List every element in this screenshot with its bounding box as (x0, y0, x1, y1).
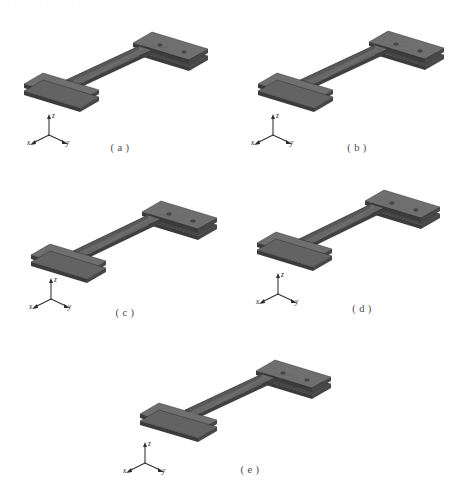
panel-a: z x y ( a ) (0, 12, 232, 160)
axis-triad-a: z x y (27, 111, 73, 147)
panel-d-caption: ( d ) (332, 303, 392, 314)
panel-e-caption: ( e ) (220, 464, 280, 475)
axis-label-y: y (294, 298, 299, 306)
panel-c-caption: ( c ) (95, 307, 155, 318)
axis-triad-c: z x y (29, 275, 75, 311)
beam-web (300, 45, 388, 88)
axis-label-z: z (147, 440, 151, 448)
axis-triad-e: z x y (123, 439, 169, 475)
beam-web (73, 215, 161, 259)
axis-label-z: z (275, 112, 279, 120)
specimen-e (110, 340, 360, 499)
axis-label-z: z (51, 112, 55, 120)
axis-label-x: x (122, 467, 127, 475)
axis-label-z: z (280, 271, 284, 279)
scan-artifact-text: ·· ··· ···· ··· ···· ··· ···· ·· (4, 0, 154, 9)
axis-label-y: y (289, 139, 294, 147)
axis-label-x: x (26, 139, 31, 147)
beam-web (66, 46, 152, 88)
axis-triad-d: z x y (256, 270, 302, 306)
axis-label-y: y (65, 139, 70, 147)
axis-label-x: x (28, 303, 33, 311)
panel-c: z x y ( c ) (0, 175, 232, 325)
axis-label-y: y (161, 467, 166, 475)
axis-label-y: y (67, 303, 72, 311)
axis-triad-b: z x y (251, 111, 297, 147)
panel-b: z x y ( b ) (232, 12, 464, 160)
axis-label-x: x (250, 139, 255, 147)
axis-label-z: z (53, 276, 57, 284)
beam-web (185, 374, 275, 418)
figure-sheet: ·· ··· ···· ··· ···· ··· ···· ·· (0, 0, 464, 499)
panel-d: z x y ( d ) (232, 175, 464, 325)
panel-b-caption: ( b ) (327, 142, 387, 153)
axis-label-x: x (255, 298, 260, 306)
beam-web (299, 204, 384, 247)
panel-a-caption: ( a ) (90, 142, 150, 153)
panel-e: z x y ( e ) (110, 340, 360, 499)
